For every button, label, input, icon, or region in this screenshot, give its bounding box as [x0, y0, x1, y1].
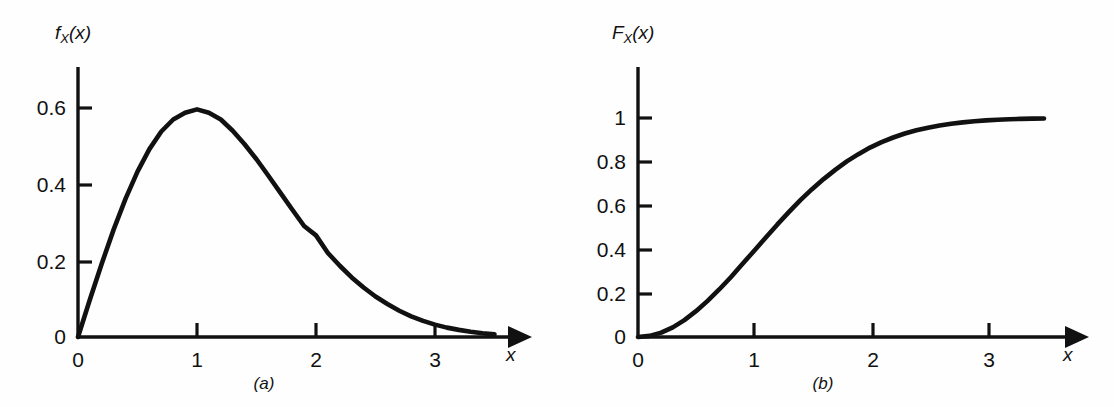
y-tick-label-a-1: 0.2 [14, 250, 66, 274]
y-tick-label-b-5: 1 [574, 106, 626, 130]
y-tick-label-b-4: 0.8 [574, 150, 626, 174]
y-axis-label-a: fX(x) [55, 22, 91, 46]
pdf-curve [78, 109, 495, 337]
chart-panel-b: FX(x) x 1 0.8 0.6 0.4 0.2 0 0 1 2 3 (b) [557, 0, 1114, 407]
x-tick-label-b-3: 3 [969, 348, 1009, 372]
x-tick-label-b-0: 0 [618, 348, 658, 372]
x-axis-label-b: x [1063, 344, 1073, 366]
y-axis-label-a-arg: (x) [69, 22, 91, 43]
panel-caption-a: (a) [234, 374, 294, 394]
y-axis-label-b-subscript: X [624, 31, 633, 46]
x-tick-label-a-2: 2 [296, 348, 336, 372]
y-tick-label-b-0: 0 [574, 325, 626, 349]
x-tick-label-a-0: 0 [58, 348, 98, 372]
x-axis-label-a: x [506, 344, 516, 366]
figure-container: fX(x) x 0.6 0.4 0.2 0 0 1 2 3 (a) FX(x) … [0, 0, 1114, 407]
x-tick-label-a-1: 1 [177, 348, 217, 372]
y-tick-label-a-3: 0.6 [14, 96, 66, 120]
x-tick-label-b-1: 1 [734, 348, 774, 372]
x-tick-label-b-2: 2 [853, 348, 893, 372]
y-tick-label-b-1: 0.2 [574, 282, 626, 306]
chart-b-canvas [557, 0, 1114, 407]
chart-panel-a: fX(x) x 0.6 0.4 0.2 0 0 1 2 3 (a) [0, 0, 557, 407]
y-axis-label-b-arg: (x) [632, 22, 654, 43]
y-tick-label-a-0: 0 [14, 325, 66, 349]
chart-a-canvas [0, 0, 557, 407]
y-axis-label-a-subscript: X [60, 31, 69, 46]
y-tick-label-a-2: 0.4 [14, 173, 66, 197]
cdf-curve [638, 118, 1044, 337]
panel-caption-b: (b) [793, 374, 853, 394]
y-axis-label-b: FX(x) [612, 22, 654, 46]
y-axis-label-b-main: F [612, 22, 624, 43]
x-tick-label-a-3: 3 [415, 348, 455, 372]
y-tick-label-b-3: 0.6 [574, 194, 626, 218]
y-tick-label-b-2: 0.4 [574, 238, 626, 262]
